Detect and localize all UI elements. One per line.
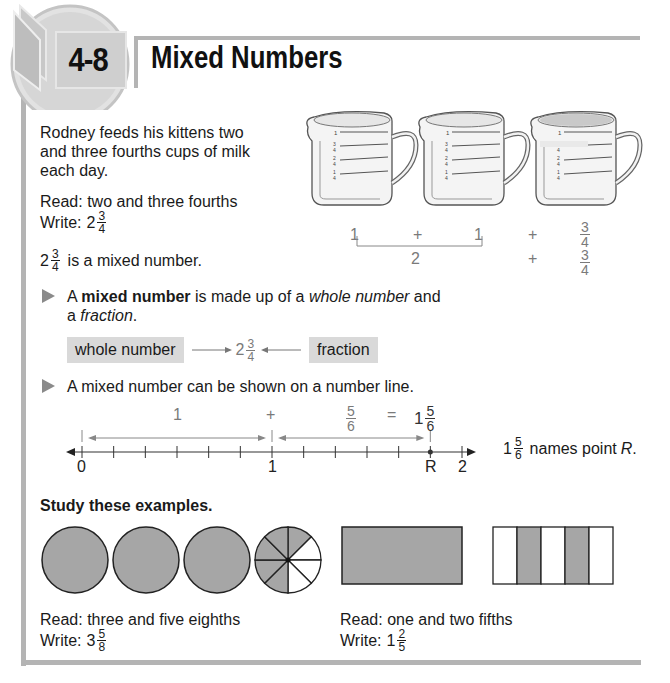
whole-number-tag: whole number [67,337,184,363]
mixed-whole: 1 [386,631,395,650]
example1-write: Write: 3 5 8 [40,628,108,653]
definition-text: A mixed number is made up of a whole num… [67,287,441,325]
fraction: 5 6 [425,404,435,433]
denominator: 4 [52,261,59,273]
numberline-caption: 1 5 6 names point R. [503,436,637,461]
mixed-whole: 3 [86,631,95,650]
definition-fraction-word: fraction [80,307,132,324]
whole-rectangle [342,527,462,584]
whole-circle [42,527,108,593]
story-line: and three fourths cups of milk [40,142,250,161]
denominator: 8 [98,641,105,653]
cup-sum-fraction: 3 4 [578,220,592,249]
mixed-number-parts-diagram: whole number 2 3 4 fraction [67,337,378,363]
fraction-tag: fraction [309,337,377,363]
bullet-arrow-icon [42,289,55,303]
segment-fraction-label: 5 6 [344,404,358,433]
examples-heading: Study these examples. [40,497,213,515]
fifths-rectangles-model [330,520,630,600]
numerator: 3 [580,220,590,235]
arrowhead-icon [88,435,96,441]
numerator: 5 [425,404,435,419]
cup-sum-bracket [355,230,485,250]
circle-center [286,558,291,563]
fraction: 3 4 [97,210,106,235]
unshaded-part [493,527,517,584]
shaded-part [565,527,589,584]
eighths-circles-model [30,520,330,600]
tick-label-0: 0 [77,458,86,476]
write-label: Write: [40,631,81,650]
fraction: 2 5 [397,628,406,653]
numberline-equals: = [387,406,396,424]
caption-end: . [632,439,636,458]
unshaded-part [541,527,565,584]
arrow-right-icon [467,448,476,456]
definition-prefix: A [67,288,81,305]
example1-read: Read: three and five eighths [40,610,240,629]
numerator: 3 [580,248,590,263]
numberline-plus: + [266,406,275,424]
tick-label-2: 2 [458,458,467,476]
write-line: Write: 2 3 4 [40,210,108,235]
mixed-whole: 2 [86,213,95,232]
measuring-cup-three-fourths [531,112,640,205]
numerator: 5 [346,404,356,419]
shaded-part [517,527,541,584]
measuring-cup-full [419,112,528,205]
example2-write: Write: 1 2 5 [340,628,408,653]
write-label: Write: [40,213,81,232]
intro-story: Rodney feeds his kittens two and three f… [40,123,250,180]
mixed-whole: 1 [414,409,423,429]
segment-one-label: 1 [173,406,182,424]
mixed-whole: 2 [40,251,49,270]
unshaded-part [589,527,613,584]
mixed-whole: 1 [503,439,512,458]
denominator: 6 [347,419,355,433]
page-frame-bottom [21,660,641,665]
arrow-right-icon [192,345,232,355]
whole-circle [113,527,179,593]
caption-point: R [621,439,633,458]
example2-read: Read: one and two fifths [340,610,513,629]
statement-text: is a mixed number. [68,251,202,270]
write-label: Write: [340,631,381,650]
read-line: Read: two and three fourths [40,192,237,211]
caption-text: names point [530,439,617,458]
numberline-result: 1 5 6 [414,404,437,433]
definition-line2-prefix: a [67,307,80,324]
cup-total-plus: + [528,250,537,268]
denominator: 4 [98,223,105,235]
arrow-left-icon [261,345,301,355]
fraction: 3 4 [51,248,60,273]
cup-sum-plus: + [528,226,537,244]
arrowhead-icon [278,435,286,441]
denominator: 5 [398,641,405,653]
measuring-cups-illustration: 1 3 4 2 4 1 4 [300,105,670,215]
fraction: 5 8 [97,628,106,653]
tick-label-1: 1 [268,458,277,476]
denominator: 6 [426,419,434,433]
denominator: 6 [515,449,522,461]
fraction: 3 4 [246,338,255,363]
story-line: Rodney feeds his kittens two [40,123,250,142]
definition-and: and [409,288,440,305]
arrowhead-icon [416,435,424,441]
point-r-label: R [425,458,437,476]
number-line [0,400,480,490]
fraction: 5 6 [514,436,523,461]
bullet-arrow-icon [42,379,55,393]
mixed-whole: 2 [236,341,245,359]
mixed-number-statement: 2 3 4 is a mixed number. [40,248,202,273]
arrow-left-icon [66,448,75,456]
cup-total-whole: 2 [411,250,420,268]
definition-term: mixed number [81,288,190,305]
definition-whole-word: whole number [309,288,410,305]
story-line: each day. [40,161,250,180]
page-frame-left [21,60,26,666]
denominator: 4 [247,351,254,363]
whole-circle [184,527,250,593]
denominator: 4 [581,263,589,277]
measuring-cup-full [307,112,416,205]
arrowhead-icon [258,435,266,441]
